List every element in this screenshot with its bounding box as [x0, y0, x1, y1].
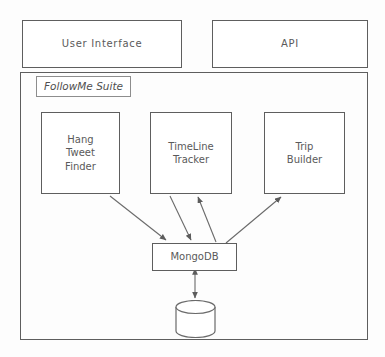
node-api[interactable]: API — [212, 20, 368, 68]
suite-label: FollowMe Suite — [36, 76, 131, 97]
node-timeline-tracker-label: TimeLine Tracker — [168, 140, 213, 167]
node-timeline-tracker[interactable]: TimeLine Tracker — [150, 112, 232, 194]
node-api-label: API — [281, 37, 299, 51]
node-mongodb-label: MongoDB — [170, 250, 218, 264]
node-user-interface[interactable]: User Interface — [22, 20, 182, 68]
node-hang-tweet-finder-label: Hang Tweet Finder — [65, 133, 96, 174]
node-user-interface-label: User Interface — [62, 37, 143, 51]
cylinder-icon — [175, 300, 216, 338]
node-trip-builder[interactable]: Trip Builder — [264, 112, 345, 194]
node-trip-builder-label: Trip Builder — [287, 140, 322, 167]
node-mongodb[interactable]: MongoDB — [152, 243, 237, 271]
node-hang-tweet-finder[interactable]: Hang Tweet Finder — [41, 112, 120, 194]
diagram-canvas: User Interface API FollowMe Suite Hang T… — [0, 0, 385, 357]
